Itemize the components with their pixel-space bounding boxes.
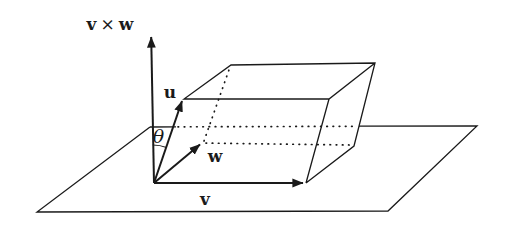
label-w: w [207,146,223,166]
triple-product-parallelepiped-diagram: v×w u θ w v [0,0,509,232]
label-theta: θ [153,125,165,147]
diagram-canvas: v×w u θ w v [0,0,509,232]
label-u: u [164,82,176,102]
parallelepiped-hidden-edges [204,67,351,145]
label-v-cross-w: v×w [86,14,134,34]
label-v: v [199,189,211,209]
vector-v-cross-w-arrow [151,37,154,183]
ground-plane-outline [37,126,477,212]
ground-plane-hidden-edge [178,126,357,127]
